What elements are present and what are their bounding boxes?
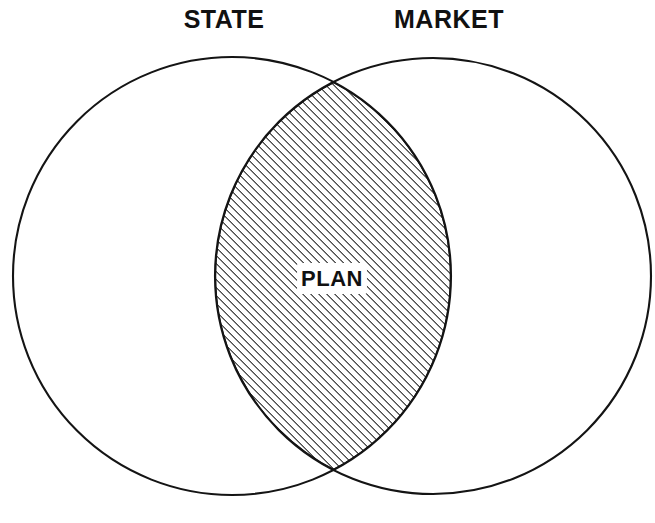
venn-diagram-canvas: STATE MARKET PLAN: [0, 0, 655, 523]
set-label-market: MARKET: [394, 5, 504, 33]
venn-diagram: STATE MARKET PLAN: [0, 0, 655, 523]
set-label-state: STATE: [184, 5, 265, 33]
region-label-plan: PLAN: [301, 266, 363, 291]
